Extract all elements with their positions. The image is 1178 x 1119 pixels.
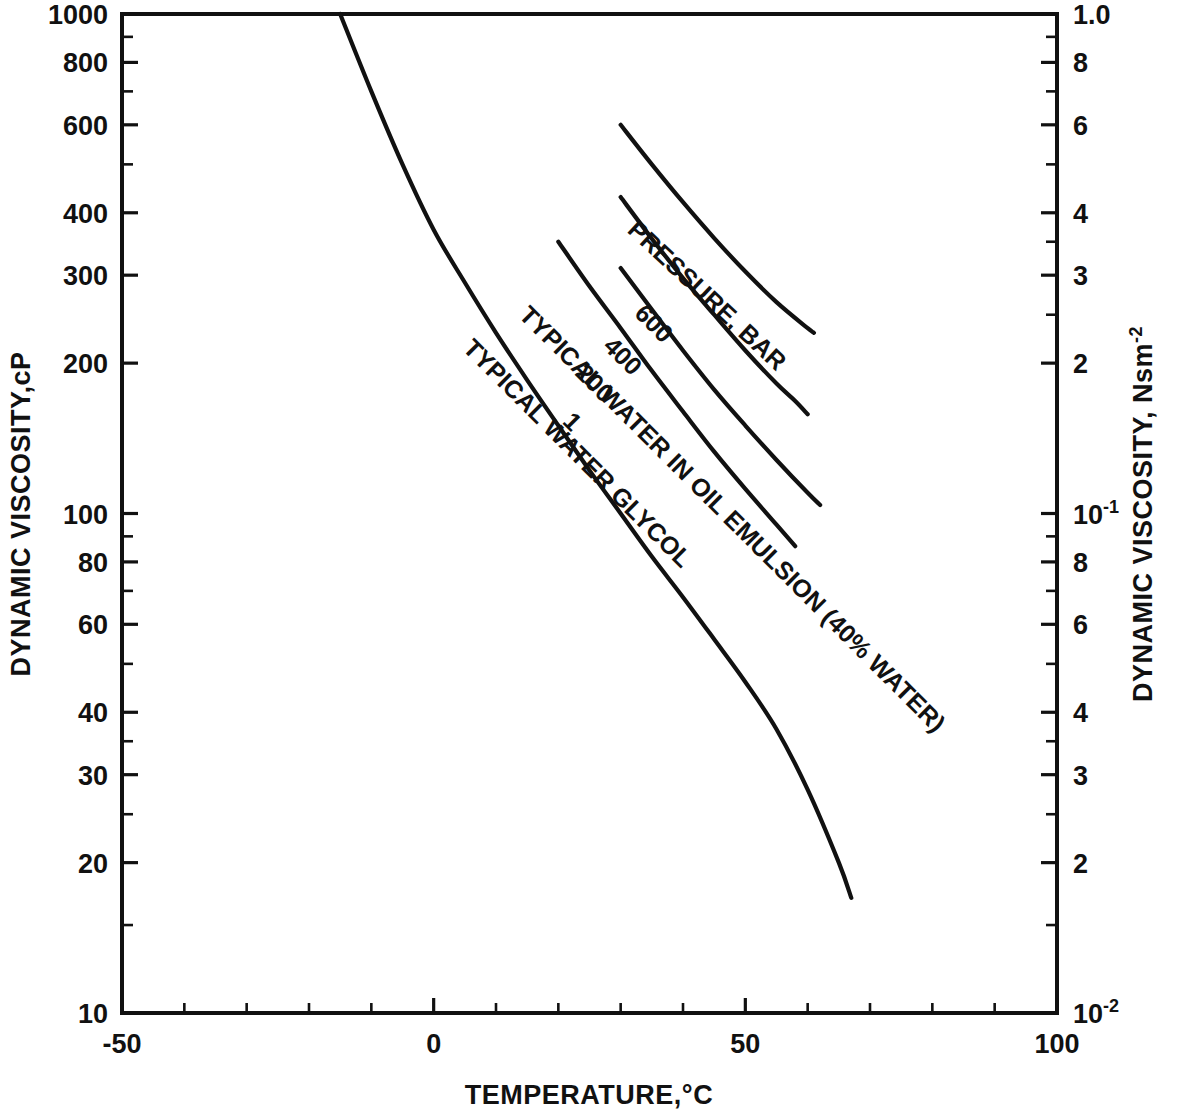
x-tick-label: 100 (1034, 1029, 1079, 1059)
left-y-tick-label: 30 (78, 761, 108, 791)
right-y-tick-label: 3 (1073, 261, 1088, 291)
x-tick-label: 0 (426, 1029, 441, 1059)
curve-labels: PRESSURE, BAR6004002001TYPICAL WATER IN … (458, 215, 951, 737)
x-tick-label: -50 (102, 1029, 141, 1059)
right-y-axis-title-exponent: -2 (1126, 326, 1146, 343)
left-y-tick-label: 60 (78, 610, 108, 640)
curve-label-600: 600 (630, 298, 679, 347)
right-y-tick-label: 10-1 (1073, 497, 1119, 530)
left-y-axis-ticks (122, 14, 138, 1013)
left-y-tick-label: 300 (63, 261, 108, 291)
left-y-tick-label: 20 (78, 849, 108, 879)
left-y-tick-label: 80 (78, 548, 108, 578)
svg-text:DYNAMIC VISCOSITY, Nsm-2: DYNAMIC VISCOSITY, Nsm-2 (1126, 326, 1158, 702)
right-y-tick-label: 1.0 (1073, 0, 1111, 30)
x-axis-tick-labels: -50050100 (102, 1029, 1079, 1059)
right-y-tick-label: 2 (1073, 349, 1088, 379)
left-y-tick-label: 200 (63, 349, 108, 379)
left-y-axis-tick-labels: 1000800600400300200100806040302010 (48, 0, 108, 1029)
left-y-tick-label: 600 (63, 111, 108, 141)
right-y-axis-tick-labels: 1.08643210-18643210-2 (1073, 0, 1119, 1029)
left-y-tick-label: 10 (78, 999, 108, 1029)
right-y-axis-title: DYNAMIC VISCOSITY, Nsm (1128, 343, 1158, 702)
right-y-tick-label: 8 (1073, 548, 1088, 578)
viscosity-temperature-chart: -50050100 100080060040030020010080604030… (0, 0, 1178, 1119)
x-tick-label: 50 (730, 1029, 760, 1059)
x-axis-title: TEMPERATURE,°C (465, 1080, 713, 1110)
right-y-tick-label: 10-2 (1073, 996, 1119, 1029)
right-y-tick-label: 4 (1073, 199, 1088, 229)
curve-label-water-in-oil-emulsion: TYPICAL WATER IN OIL EMULSION (40% WATER… (514, 300, 951, 737)
right-y-tick-label: 4 (1073, 698, 1088, 728)
right-y-axis-ticks (1041, 14, 1057, 1013)
right-y-tick-label: 3 (1073, 761, 1088, 791)
right-y-tick-label: 2 (1073, 849, 1088, 879)
right-y-tick-label: 8 (1073, 48, 1088, 78)
right-y-axis-title-group: DYNAMIC VISCOSITY, Nsm-2 (1126, 326, 1158, 702)
left-y-tick-label: 400 (63, 199, 108, 229)
left-y-axis-title: DYNAMIC VISCOSITY,cP (6, 351, 36, 676)
left-y-tick-label: 100 (63, 500, 108, 530)
left-y-tick-label: 40 (78, 698, 108, 728)
left-y-tick-label: 1000 (48, 0, 108, 30)
chart-figure: -50050100 100080060040030020010080604030… (0, 0, 1178, 1119)
right-y-tick-label: 6 (1073, 610, 1088, 640)
left-y-tick-label: 800 (63, 48, 108, 78)
right-y-tick-label: 6 (1073, 111, 1088, 141)
plot-frame (122, 14, 1057, 1013)
x-axis-ticks (122, 998, 1057, 1013)
